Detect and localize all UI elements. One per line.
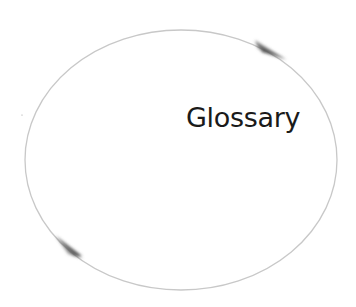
arrow-head-icon [255, 40, 287, 60]
diagram-label: Glossary [186, 104, 300, 131]
stray-dot [21, 114, 22, 115]
arrow-head-icon [55, 235, 83, 259]
cycle-diagram [0, 0, 356, 307]
